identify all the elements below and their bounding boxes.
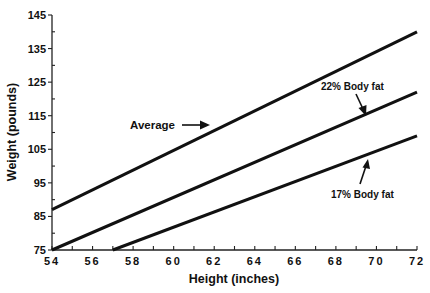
arrow-17-body-fat-icon [360, 159, 370, 184]
arrow-22-body-fat-icon [356, 94, 367, 116]
y-tick-label: 105 [28, 143, 46, 155]
y-tick-label: 115 [28, 110, 46, 122]
y-axis-title: Weight (pounds) [5, 83, 19, 181]
weight-height-chart: 7585951051151251351455456586062646668707… [0, 0, 430, 293]
x-tick-label: 60 [166, 255, 182, 267]
x-tick-label: 62 [206, 255, 222, 267]
x-tick-label: 66 [287, 255, 303, 267]
x-tick-label: 64 [247, 255, 263, 267]
y-tick-label: 145 [28, 9, 46, 21]
y-tick-label: 135 [28, 43, 46, 55]
annotation-average: Average [130, 119, 175, 131]
y-tick-label: 125 [28, 76, 46, 88]
series-lines [52, 32, 417, 250]
ticks: 7585951051151251351455456586062646668707… [28, 9, 425, 267]
series-line-average [52, 32, 417, 210]
annotation-17-body-fat: 17% Body fat [331, 189, 394, 200]
x-tick-label: 58 [125, 255, 141, 267]
axes [52, 15, 417, 250]
x-tick-label: 54 [44, 255, 60, 267]
series-line-22-body-fat [52, 92, 417, 250]
x-tick-label: 56 [84, 255, 100, 267]
x-axis-title: Height (inches) [189, 272, 279, 286]
y-tick-label: 95 [34, 177, 46, 189]
y-tick-label: 85 [34, 210, 46, 222]
arrow-average-icon [182, 121, 210, 130]
x-tick-label: 68 [328, 255, 344, 267]
x-tick-label: 72 [409, 255, 425, 267]
x-tick-label: 70 [368, 255, 384, 267]
annotation-22-body-fat: 22% Body fat [321, 81, 384, 92]
